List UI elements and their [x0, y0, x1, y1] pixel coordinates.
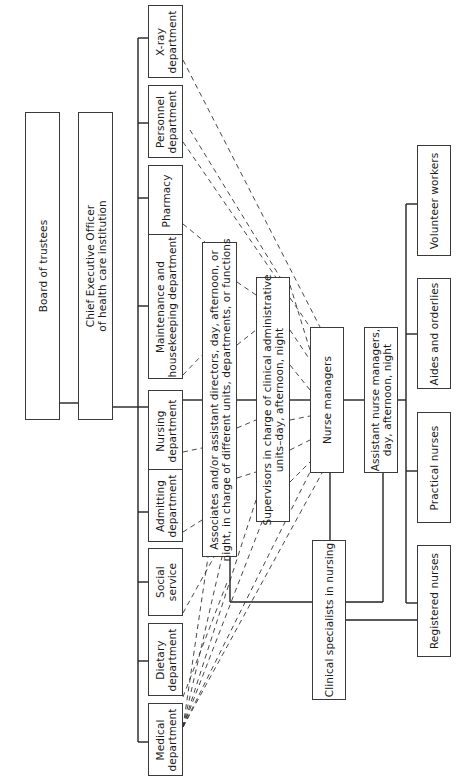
volunteer-workers-box: Volunteer workers	[417, 145, 451, 256]
maintenance-department-label: Maintenance and housekeeping department	[154, 236, 178, 377]
social-service-label: Social service	[154, 563, 178, 601]
nursing-department-label: Nursing department	[154, 399, 178, 462]
supervisors-box: Supervisors in charge of clinical admini…	[256, 277, 290, 522]
nursing-department-box: Nursing department	[148, 390, 183, 472]
social-service-box: Social service	[148, 548, 183, 616]
registered-nurses-box: Registered nurses	[417, 545, 451, 657]
practical-nurses-box: Practical nurses	[417, 412, 451, 523]
nurse-managers-label: Nurse managers	[321, 356, 333, 444]
nurse-managers-box: Nurse managers	[310, 327, 344, 473]
medical-department-box: Medical department	[148, 703, 183, 776]
medical-department-label: Medical department	[154, 708, 178, 771]
admitting-department-label: Admitting department	[154, 474, 178, 537]
ceo-label: Chief Executive Officer of health care i…	[84, 200, 108, 332]
assistant-nurse-managers-box: Assistant nurse managers, day, afternoon…	[364, 327, 398, 473]
registered-nurses-label: Registered nurses	[428, 553, 440, 649]
personnel-department-label: Personnel department	[154, 90, 178, 153]
xray-department-box: X-ray department	[148, 5, 183, 78]
board-of-trustees-label: Board of trustees	[37, 220, 49, 312]
clinical-specialists-box: Clinical specialists in nursing	[312, 540, 346, 700]
aides-orderlies-box: Aides and orderlies	[417, 278, 451, 389]
board-of-trustees-box: Board of trustees	[25, 112, 60, 420]
pharmacy-box: Pharmacy	[148, 165, 183, 237]
assistant-nurse-managers-label: Assistant nurse managers, day, afternoon…	[369, 329, 393, 472]
personnel-department-box: Personnel department	[148, 85, 183, 158]
dietary-department-box: Dietary department	[148, 623, 183, 696]
aides-orderlies-label: Aides and orderlies	[428, 282, 440, 385]
associates-label: Associates and/or assistant directors, d…	[208, 238, 232, 561]
clinical-specialists-label: Clinical specialists in nursing	[323, 543, 335, 698]
associates-box: Associates and/or assistant directors, d…	[202, 242, 237, 557]
practical-nurses-label: Practical nurses	[428, 425, 440, 510]
xray-department-label: X-ray department	[154, 10, 178, 73]
maintenance-department-box: Maintenance and housekeeping department	[148, 234, 183, 379]
volunteer-workers-label: Volunteer workers	[428, 152, 440, 249]
ceo-box: Chief Executive Officer of health care i…	[78, 112, 113, 420]
dietary-department-label: Dietary department	[154, 628, 178, 691]
admitting-department-box: Admitting department	[148, 469, 183, 542]
supervisors-label: Supervisors in charge of clinical admini…	[261, 274, 285, 525]
pharmacy-label: Pharmacy	[160, 174, 172, 227]
